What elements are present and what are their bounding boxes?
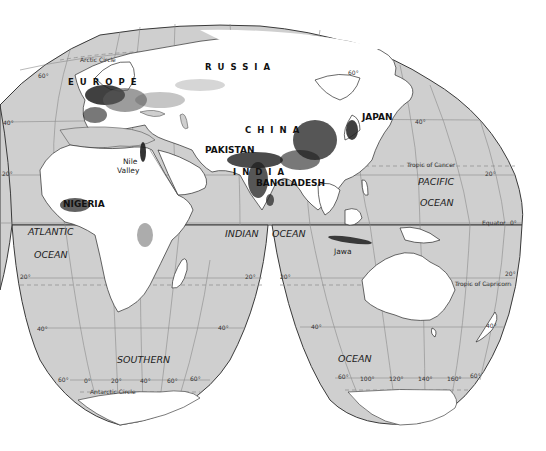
label-pacific: PACIFIC [418, 176, 454, 187]
deg-lon-40: 40° [140, 377, 151, 384]
label-bangladesh: BANGLADESH [256, 178, 325, 188]
label-japan: JAPAN [361, 112, 393, 122]
label-valley: Valley [117, 166, 140, 175]
antarctica-west-land [78, 391, 200, 425]
deg-n60-left: 60° [38, 72, 49, 79]
deg-lon-60: 60° [167, 377, 178, 384]
deg-s20-a: 20° [20, 273, 31, 280]
label-pacific-ocean: OCEAN [420, 197, 454, 208]
deg-s20-c: 20° [280, 273, 291, 280]
label-arctic-circle: Arctic Circle [80, 56, 116, 63]
label-india: INDIA [233, 167, 290, 177]
label-china: CHINA [245, 125, 305, 135]
deg-s40-b: 40° [218, 324, 229, 331]
deg-s60-a: 60° [58, 376, 69, 383]
deg-n20-right: 20° [485, 170, 496, 177]
label-tropic-capricorn: Tropic of Capricorn [454, 280, 511, 288]
deg-n40-left: 40° [3, 119, 14, 126]
deg-s40-d: 40° [486, 322, 497, 329]
label-southern-ocean: OCEAN [338, 353, 372, 364]
deg-lon-160: 160° [447, 375, 461, 382]
label-southern: SOUTHERN [117, 354, 170, 365]
deg-n60-right: 60° [348, 69, 359, 76]
label-indian-ocean: OCEAN [272, 228, 306, 239]
deg-lon-120: 120° [389, 375, 403, 382]
deg-lon-0: 0° [84, 377, 91, 384]
label-antarctic-circle: Antarctic Circle [90, 388, 136, 395]
world-population-map: RUSSIA EUROPE CHINA JAPAN PAKISTAN INDIA… [0, 0, 546, 451]
label-russia: RUSSIA [205, 62, 276, 72]
deg-n40-right: 40° [415, 118, 426, 125]
deg-s60-b: 60° [190, 375, 201, 382]
label-tropic-cancer: Tropic of Cancer [406, 161, 456, 169]
deg-lon-100: 100° [360, 375, 374, 382]
deg-lon-20: 20° [111, 377, 122, 384]
deg-n20-left: 20° [2, 170, 13, 177]
deg-s20-b: 20° [245, 273, 256, 280]
deg-s40-a: 40° [37, 325, 48, 332]
deg-lon-140: 140° [418, 375, 432, 382]
label-europe: EUROPE [68, 77, 143, 87]
label-pakistan: PAKISTAN [205, 145, 254, 155]
deg-equator: 0° [510, 219, 517, 226]
label-atlantic-ocean: OCEAN [34, 249, 68, 260]
label-nigeria: NIGERIA [63, 199, 105, 209]
deg-s40-c: 40° [311, 323, 322, 330]
label-equator: Equator [482, 219, 506, 227]
label-indian: INDIAN [225, 228, 259, 239]
deg-s60-c: 60° [338, 373, 349, 380]
label-jawa: Jawa [333, 247, 352, 256]
label-nile: Nile [123, 157, 138, 166]
deg-s20-d: 20° [505, 270, 516, 277]
label-atlantic: ATLANTIC [27, 226, 74, 237]
deg-s60-d: 60° [470, 372, 481, 379]
